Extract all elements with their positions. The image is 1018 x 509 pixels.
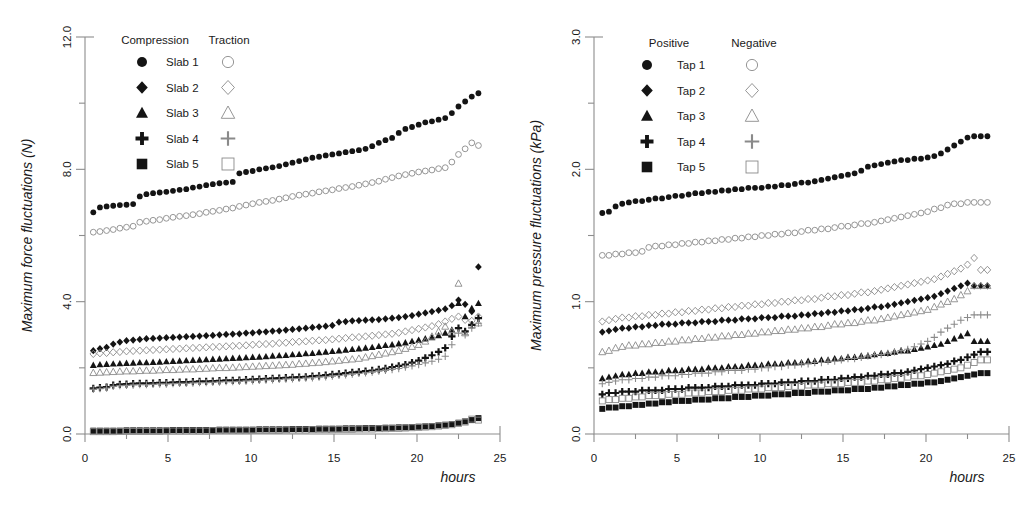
data-point xyxy=(269,327,276,334)
data-point xyxy=(296,351,303,357)
data-point xyxy=(965,373,971,379)
data-point xyxy=(442,305,449,312)
data-point xyxy=(845,319,852,325)
data-point xyxy=(289,375,296,382)
data-point xyxy=(878,218,884,224)
data-point xyxy=(645,322,652,329)
data-point xyxy=(938,290,945,297)
data-point xyxy=(845,307,852,314)
data-point xyxy=(659,243,665,249)
data-point xyxy=(223,364,230,370)
data-point xyxy=(170,334,177,341)
data-point xyxy=(256,200,262,206)
data-point xyxy=(785,230,791,236)
data-point xyxy=(383,137,389,143)
data-point xyxy=(632,313,639,320)
data-point xyxy=(217,180,223,186)
data-point xyxy=(725,395,731,401)
legend-marker-open-square xyxy=(746,161,758,173)
data-point xyxy=(984,338,991,344)
data-point xyxy=(838,307,845,314)
data-point xyxy=(369,352,376,358)
data-point xyxy=(832,174,838,180)
data-point xyxy=(136,367,143,373)
data-point xyxy=(270,164,276,170)
data-point xyxy=(150,359,157,365)
data-point xyxy=(825,176,831,182)
data-point xyxy=(269,362,276,368)
data-point xyxy=(269,340,276,347)
data-point xyxy=(639,387,646,394)
data-point xyxy=(223,343,230,350)
data-point xyxy=(336,186,342,192)
data-point xyxy=(222,378,229,385)
data-point xyxy=(904,281,911,288)
data-point xyxy=(931,276,938,283)
data-point xyxy=(858,289,865,296)
data-point xyxy=(289,351,296,357)
data-point xyxy=(791,362,798,369)
data-point xyxy=(659,399,665,405)
data-point xyxy=(977,348,984,355)
data-point xyxy=(964,314,971,321)
data-point xyxy=(606,397,612,403)
data-point xyxy=(203,379,210,386)
data-point xyxy=(283,339,290,346)
data-point xyxy=(435,307,442,314)
y-tick-label: 8.0 xyxy=(61,161,73,177)
data-point xyxy=(170,366,177,372)
data-point xyxy=(958,365,964,371)
data-point xyxy=(223,355,230,361)
data-point xyxy=(309,337,316,344)
data-point xyxy=(442,165,448,171)
data-point xyxy=(964,280,971,287)
data-point xyxy=(977,311,984,318)
data-point xyxy=(236,330,243,337)
data-point xyxy=(633,402,639,408)
data-point xyxy=(838,387,844,393)
legend-row-label: Tap 2 xyxy=(677,85,705,97)
data-point xyxy=(825,309,832,316)
data-point xyxy=(918,278,925,285)
data-point xyxy=(718,317,725,324)
data-point xyxy=(290,194,296,200)
data-point xyxy=(905,157,911,163)
data-point xyxy=(871,287,878,294)
legend-marker-open-plus xyxy=(221,131,236,146)
data-point xyxy=(599,391,606,398)
data-point xyxy=(183,345,190,352)
data-point xyxy=(818,389,824,395)
legend-row-label: Slab 1 xyxy=(166,56,199,68)
legend-marker-filled-diamond xyxy=(136,81,148,94)
data-point xyxy=(599,252,605,258)
data-point xyxy=(369,180,375,186)
data-point xyxy=(177,213,183,219)
data-point xyxy=(732,317,739,324)
data-point xyxy=(124,224,130,230)
data-point xyxy=(779,182,785,188)
data-point xyxy=(984,311,991,318)
data-point xyxy=(436,117,442,123)
data-point xyxy=(884,285,891,292)
data-point xyxy=(685,336,692,342)
data-point xyxy=(838,223,844,229)
data-point xyxy=(904,310,911,316)
data-point xyxy=(303,191,309,197)
data-point xyxy=(772,231,778,237)
data-point xyxy=(653,243,659,249)
data-point xyxy=(698,335,705,341)
data-point xyxy=(945,367,951,373)
data-point xyxy=(230,179,236,185)
data-point xyxy=(957,332,964,338)
data-point xyxy=(885,383,891,389)
data-point xyxy=(831,321,838,327)
data-point xyxy=(665,321,672,328)
data-point xyxy=(606,327,613,334)
data-point xyxy=(606,317,613,324)
data-point xyxy=(931,153,937,159)
data-point xyxy=(276,352,283,358)
data-point xyxy=(752,234,758,240)
data-point xyxy=(163,189,169,195)
data-point xyxy=(937,301,944,307)
data-point xyxy=(329,348,336,354)
